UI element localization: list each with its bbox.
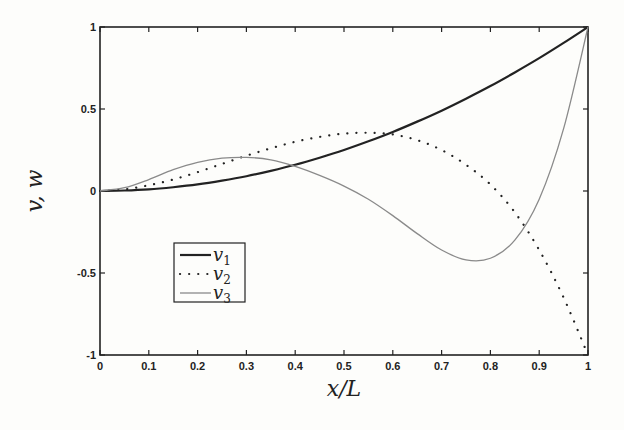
- x-tick-label: 0.8: [483, 360, 498, 372]
- series-v3-line: [100, 27, 588, 261]
- series-v2-line: [100, 133, 588, 355]
- y-axis-label: v, w: [22, 170, 47, 213]
- x-tick-label: 0.2: [190, 360, 205, 372]
- y-tick-label: -1: [86, 349, 96, 361]
- x-axis-ticks: 00.10.20.30.40.50.60.70.80.91: [97, 27, 591, 372]
- y-tick-label: -0.5: [77, 267, 96, 279]
- series-v1-line: [100, 27, 588, 191]
- x-axis-label: x/L: [327, 376, 361, 401]
- x-tick-label: 1: [585, 360, 591, 372]
- x-tick-label: 0.6: [385, 360, 400, 372]
- plot-area: 00.10.20.30.40.50.60.70.80.91 -1-0.500.5…: [77, 21, 591, 372]
- x-tick-label: 0.1: [141, 360, 156, 372]
- y-axis-ticks: -1-0.500.51: [77, 21, 588, 361]
- y-tick-label: 0.5: [81, 103, 96, 115]
- x-tick-label: 0.5: [336, 360, 351, 372]
- x-tick-label: 0: [97, 360, 103, 372]
- line-chart: 00.10.20.30.40.50.60.70.80.91 -1-0.500.5…: [0, 0, 624, 430]
- legend: v1v2v3: [174, 243, 245, 306]
- y-tick-label: 0: [90, 185, 96, 197]
- x-tick-label: 0.9: [532, 360, 547, 372]
- x-tick-label: 0.4: [288, 360, 304, 372]
- axes-box: [100, 27, 588, 355]
- x-tick-label: 0.7: [434, 360, 449, 372]
- x-tick-label: 0.3: [239, 360, 254, 372]
- y-tick-label: 1: [90, 21, 96, 33]
- series-layer: [100, 27, 588, 355]
